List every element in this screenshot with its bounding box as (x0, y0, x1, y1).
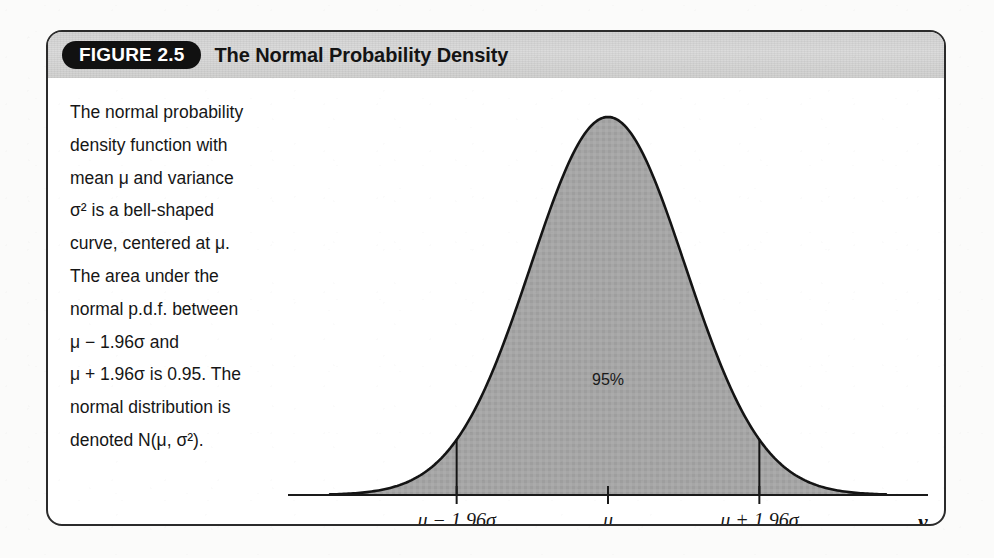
caption-line: density function with (70, 129, 278, 162)
x-tick-label-lower: μ − 1.96σ (417, 509, 495, 526)
caption-line: σ² is a bell-shaped (70, 194, 278, 227)
figure-caption: The normal probability density function … (70, 96, 278, 457)
caption-line: μ − 1.96σ and (70, 326, 278, 359)
density-fill-area (330, 117, 886, 495)
caption-line: curve, centered at μ. (70, 227, 278, 260)
caption-line: The area under the (70, 260, 278, 293)
x-axis-variable-label: y (918, 509, 928, 526)
density-curve-svg (278, 84, 938, 524)
caption-line: denoted N(μ, σ²). (70, 424, 278, 457)
figure-title: The Normal Probability Density (214, 44, 508, 67)
caption-line: μ + 1.96σ is 0.95. The (70, 358, 278, 391)
density-fill-group (330, 117, 886, 495)
figure-box: FIGURE 2.5 The Normal Probability Densit… (46, 30, 946, 526)
area-percentage-label: 95% (592, 371, 624, 389)
caption-line: normal distribution is (70, 391, 278, 424)
caption-line: mean μ and variance (70, 162, 278, 195)
x-tick-label-upper: μ + 1.96σ (720, 509, 798, 526)
figure-number-badge: FIGURE 2.5 (62, 41, 201, 70)
normal-density-plot: 95% μ − 1.96σ μ μ + 1.96σ y (278, 84, 938, 524)
caption-line: The normal probability (70, 96, 278, 129)
caption-line: normal p.d.f. between (70, 293, 278, 326)
x-tick-label-mean: μ (603, 509, 613, 526)
figure-header: FIGURE 2.5 The Normal Probability Densit… (48, 32, 944, 78)
